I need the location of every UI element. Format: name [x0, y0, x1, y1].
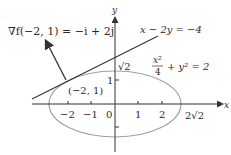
x-tick-label-1: 1 — [135, 109, 141, 120]
x-axis-label: x — [224, 100, 229, 110]
ellipse-equation-label: x² 4 + y² = 2 — [152, 55, 209, 77]
x-tick-label-neg1: −1 — [83, 109, 98, 120]
x-tick-label-2: 2 — [159, 109, 165, 120]
x-tick-label-0: 0 — [106, 109, 112, 120]
point-label: (−2, 1) — [68, 85, 103, 96]
x-tick-label-neg2: −2 — [60, 109, 75, 120]
gradient-arrow — [46, 41, 66, 80]
gradient-label: ∇f(−2, 1) = −i + 2j — [8, 25, 114, 38]
svg-text:x²: x² — [153, 55, 162, 65]
y-tick-label-1: 1 — [107, 75, 113, 86]
x-intercept-label: 2√2 — [185, 110, 204, 121]
line-label: x − 2y = −4 — [140, 24, 202, 35]
y-intercept-label: √2 — [118, 61, 131, 72]
y-axis-label: y — [111, 5, 118, 15]
svg-text:4: 4 — [155, 67, 161, 77]
svg-text:+ y² = 2: + y² = 2 — [167, 61, 209, 72]
diagram-canvas: ∇f(−2, 1) = −i + 2j x − 2y = −4 √2 x² 4 … — [0, 0, 231, 155]
